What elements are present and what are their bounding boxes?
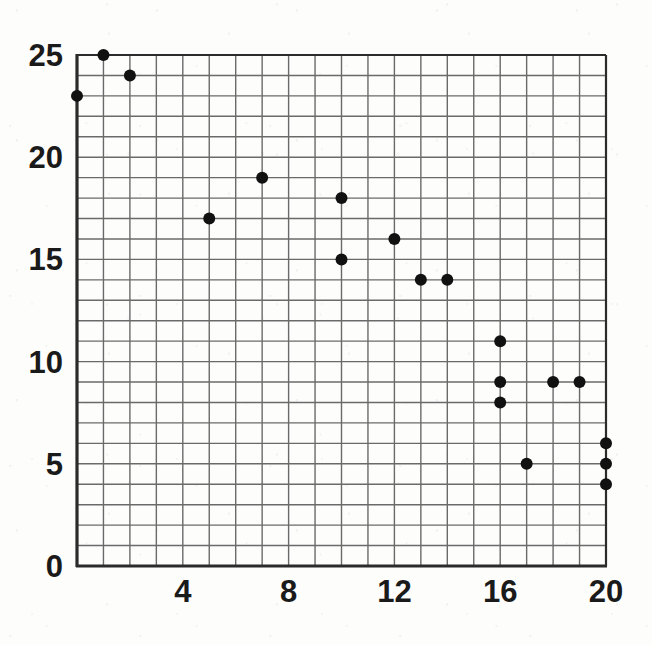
scatter-plot-figure: 0510152025 48121620	[0, 0, 652, 645]
data-point	[388, 233, 400, 245]
x-tick-label: 4	[174, 574, 192, 609]
data-point	[336, 253, 348, 265]
y-tick-label: 10	[29, 345, 63, 380]
data-point	[600, 437, 612, 449]
y-tick-label: 25	[29, 38, 63, 73]
plot-canvas: 0510152025 48121620	[0, 0, 652, 645]
data-point	[574, 376, 586, 388]
data-point	[415, 274, 427, 286]
y-tick-label: 15	[29, 242, 63, 277]
data-point	[494, 376, 506, 388]
x-tick-label: 16	[483, 574, 517, 609]
data-point	[600, 458, 612, 470]
data-point	[203, 213, 215, 225]
data-point	[600, 478, 612, 490]
data-point	[71, 90, 83, 102]
y-tick-label: 0	[46, 549, 63, 584]
y-axis-tick-labels: 0510152025	[29, 38, 63, 584]
data-point	[97, 49, 109, 61]
data-point	[494, 335, 506, 347]
data-point	[494, 396, 506, 408]
y-tick-label: 5	[46, 447, 63, 482]
data-point	[256, 172, 268, 184]
data-point	[441, 274, 453, 286]
x-tick-label: 8	[280, 574, 297, 609]
data-point	[336, 192, 348, 204]
y-tick-label: 20	[29, 140, 63, 175]
x-tick-label: 20	[589, 574, 623, 609]
data-point	[547, 376, 559, 388]
x-tick-label: 12	[377, 574, 411, 609]
data-point	[124, 69, 136, 81]
data-point	[521, 458, 533, 470]
x-axis-tick-labels: 48121620	[174, 574, 623, 609]
grid-lines	[77, 55, 606, 566]
